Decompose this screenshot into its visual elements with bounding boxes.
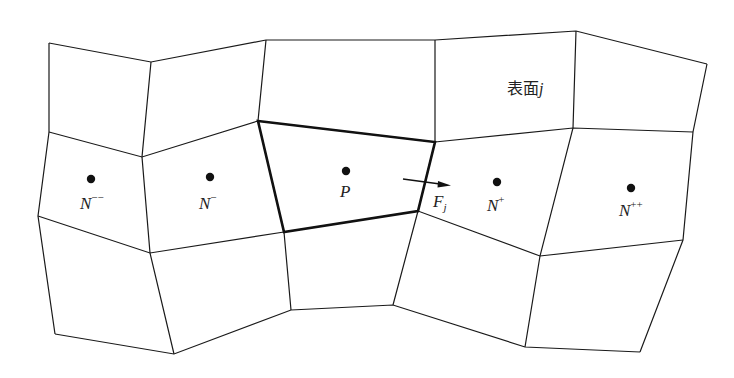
mesh-top-edge [49, 31, 707, 64]
label-flux-sub: j [443, 201, 446, 213]
node-dot-n-minus [206, 173, 214, 181]
label-n-plus-plus-base: N [619, 201, 630, 220]
label-face-index: j [539, 80, 543, 97]
node-dot-p [342, 167, 350, 175]
label-n-plus: N+ [487, 195, 505, 214]
label-n-plus-plus-sup: ++ [630, 198, 642, 210]
flux-arrow-head-icon [438, 181, 452, 188]
label-flux: Fj [433, 193, 446, 213]
label-n-plus-plus: N++ [619, 200, 643, 219]
node-dot-n-plus-plus [627, 184, 635, 192]
mesh-diagram [0, 0, 734, 378]
label-face-text: 表面 [507, 79, 539, 98]
mesh-bottom-edge [55, 305, 640, 354]
label-n-minus-minus-sup: −− [91, 191, 103, 203]
label-flux-base: F [433, 192, 443, 211]
flux-arrow-shaft [403, 179, 440, 184]
node-dot-n-plus [493, 178, 501, 186]
label-n-minus-sup: − [210, 191, 216, 203]
label-face-j: 表面j [507, 81, 543, 97]
label-p-base: P [340, 182, 350, 201]
label-n-minus: N− [199, 193, 217, 212]
label-n-minus-minus-base: N [80, 194, 91, 213]
node-dot-n-minus-minus [87, 175, 95, 183]
label-n-plus-sup: + [498, 193, 504, 205]
mesh-col-line-0 [38, 43, 55, 334]
control-volume-p [258, 121, 435, 232]
label-n-minus-base: N [199, 194, 210, 213]
mesh-col-line-1 [142, 62, 174, 354]
mesh-row-line-1 [49, 121, 693, 157]
mesh-row-line-2 [38, 211, 683, 256]
label-p: P [340, 183, 350, 200]
label-n-minus-minus: N−− [80, 193, 104, 212]
label-n-plus-base: N [487, 196, 498, 215]
mesh-col-line-2 [258, 40, 291, 310]
mesh-col-line-5 [640, 64, 707, 352]
